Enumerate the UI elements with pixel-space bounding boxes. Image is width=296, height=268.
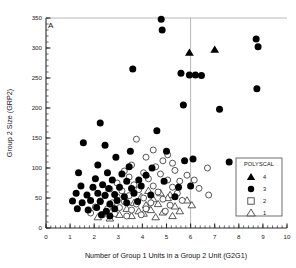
data-point xyxy=(185,49,194,56)
data-point xyxy=(169,212,177,218)
data-point xyxy=(80,139,87,146)
data-point xyxy=(155,189,161,195)
figure-panel-a: 012345678910 050100150200250300350 POLYS… xyxy=(0,0,296,268)
data-point xyxy=(170,160,176,166)
data-point xyxy=(253,85,260,92)
data-point xyxy=(150,147,156,153)
data-point xyxy=(180,102,187,109)
data-point xyxy=(226,159,233,166)
panel-label: A xyxy=(48,21,54,30)
data-point xyxy=(89,184,96,191)
data-point xyxy=(94,162,101,169)
data-point xyxy=(187,183,194,190)
x-tick-label: 3 xyxy=(117,233,121,240)
data-point xyxy=(143,172,150,179)
x-axis-major-ticks xyxy=(46,224,287,229)
data-point xyxy=(138,183,145,190)
data-point xyxy=(134,198,141,205)
y-tick-label: 350 xyxy=(32,14,43,21)
y-tick-label: 150 xyxy=(32,134,43,141)
legend: POLYSCAL4321 xyxy=(236,158,282,216)
scatter-plot: 012345678910 050100150200250300350 POLYS… xyxy=(0,0,296,268)
data-point xyxy=(98,211,105,218)
y-tick-label: 250 xyxy=(32,74,43,81)
data-point xyxy=(190,156,197,163)
data-point xyxy=(94,190,101,197)
data-point xyxy=(196,185,202,191)
data-point xyxy=(158,16,165,23)
legend-label-1: 1 xyxy=(263,210,266,216)
x-tick-label: 6 xyxy=(189,233,193,240)
data-point xyxy=(93,204,100,211)
x-tick-label: 2 xyxy=(92,233,96,240)
data-point xyxy=(157,171,163,177)
data-point xyxy=(177,70,184,77)
data-point xyxy=(135,177,142,184)
data-point xyxy=(216,106,223,113)
legend-title: POLYSCAL xyxy=(244,161,274,167)
data-point xyxy=(163,148,170,155)
data-point xyxy=(92,175,99,182)
data-point xyxy=(253,36,260,43)
data-point xyxy=(186,72,193,79)
data-point xyxy=(118,171,125,178)
data-point xyxy=(170,184,176,190)
x-tick-label: 4 xyxy=(141,233,145,240)
data-point xyxy=(159,27,166,34)
data-point xyxy=(148,200,154,206)
data-point xyxy=(150,183,156,189)
data-point xyxy=(111,205,118,212)
data-point xyxy=(114,197,121,204)
data-point xyxy=(116,184,123,191)
data-point xyxy=(106,213,113,220)
data-point xyxy=(102,142,109,149)
x-tick-label: 9 xyxy=(261,233,265,240)
data-point xyxy=(198,72,205,79)
legend-label-2: 2 xyxy=(263,198,266,204)
data-point xyxy=(130,190,137,197)
data-point xyxy=(177,178,183,184)
data-point xyxy=(184,172,190,178)
data-point xyxy=(160,158,166,164)
data-point xyxy=(172,167,178,173)
data-point xyxy=(153,127,160,134)
data-point xyxy=(161,178,168,185)
data-point xyxy=(79,199,86,206)
data-point xyxy=(99,181,106,188)
data-point xyxy=(152,214,160,220)
data-point xyxy=(162,208,168,214)
data-point xyxy=(129,207,135,213)
y-tick-label: 300 xyxy=(32,44,43,51)
data-point xyxy=(149,165,156,172)
data-point xyxy=(210,46,219,53)
data-point xyxy=(192,72,199,79)
data-point xyxy=(112,154,119,161)
data-point xyxy=(147,192,154,199)
x-tick-label: 8 xyxy=(237,233,241,240)
y-tick-label: 50 xyxy=(35,194,42,201)
y-tick-label: 0 xyxy=(39,224,43,231)
data-point xyxy=(104,169,111,176)
data-point xyxy=(85,207,92,214)
data-point xyxy=(105,185,112,192)
y-axis-tick-labels: 050100150200250300350 xyxy=(32,14,43,231)
data-point xyxy=(74,205,81,212)
legend-label-4: 4 xyxy=(263,174,266,180)
data-point xyxy=(111,191,118,198)
series-3 xyxy=(69,16,262,220)
data-points xyxy=(69,16,262,221)
data-point xyxy=(143,154,149,160)
data-point xyxy=(175,184,182,191)
data-point xyxy=(141,195,147,201)
data-point xyxy=(126,163,133,170)
data-point xyxy=(97,120,104,127)
x-axis-title: Number of Group 1 Units in a Group 2 Uni… xyxy=(85,251,247,260)
data-point xyxy=(179,197,185,203)
data-point xyxy=(123,199,130,206)
legend-label-3: 3 xyxy=(263,186,266,192)
data-point xyxy=(77,183,84,190)
x-tick-label: 5 xyxy=(165,233,169,240)
data-point xyxy=(255,43,262,50)
data-point xyxy=(109,177,116,184)
data-point xyxy=(129,66,136,73)
